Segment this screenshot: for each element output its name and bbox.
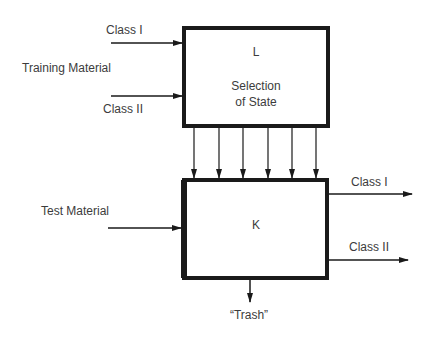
label-box-l-id: L [253, 46, 260, 58]
label-output-trash: “Trash” [230, 309, 268, 321]
label-test-material: Test Material [41, 205, 109, 217]
label-training-class-2: Class II [103, 103, 143, 115]
diagram-canvas: Class I Training Material Class II L Sel… [0, 0, 436, 338]
connections-l-to-k [194, 128, 316, 178]
diagram-lines [0, 0, 436, 338]
label-box-l-line1: Selection [231, 80, 280, 92]
label-box-l-line2: of State [235, 96, 276, 108]
label-output-class-1: Class I [351, 176, 388, 188]
label-training-material: Training Material [22, 62, 111, 74]
box-l [184, 28, 328, 126]
label-training-class-1: Class I [106, 24, 143, 36]
label-box-k-id: K [252, 219, 260, 231]
label-output-class-2: Class II [349, 241, 389, 253]
